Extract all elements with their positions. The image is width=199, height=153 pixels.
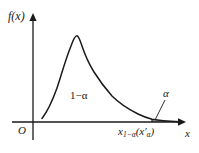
alpha-leader-line [156,100,166,119]
tail-area-label: α [163,88,169,99]
density-curve-figure: f(x) O x 1−α α x1−α(x′α) [0,0,199,153]
body-area-label: 1−α [70,90,87,101]
y-axis-label: f(x) [8,10,25,22]
origin-label: O [18,125,26,136]
x-axis-label: x [185,128,190,139]
y-axis-arrowhead [29,13,36,21]
figure-canvas [0,0,199,153]
density-curve [42,36,183,122]
quantile-main-subscript: 1−α [123,130,136,139]
quantile-alt-close-paren: ) [151,125,155,137]
quantile-label: x1−α(x′α) [118,126,154,139]
